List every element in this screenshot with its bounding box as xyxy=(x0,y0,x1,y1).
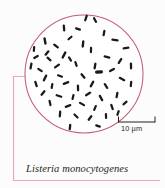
bacteria-cell xyxy=(95,70,103,74)
bacteria-cell xyxy=(90,47,92,53)
bacteria-cell xyxy=(59,111,62,118)
bacteria-cell xyxy=(105,113,107,119)
bacteria-cell xyxy=(130,62,133,69)
scale-bar-label: 10 µm xyxy=(121,124,142,133)
listeria-micrograph-figure: 10 µm Listeria monocytogenes xyxy=(0,0,165,188)
figure-canvas: 10 µm Listeria monocytogenes xyxy=(0,0,165,188)
microscope-field-circle xyxy=(25,15,143,133)
bacteria-cell xyxy=(77,85,80,92)
organism-caption: Listeria monocytogenes xyxy=(25,163,128,174)
